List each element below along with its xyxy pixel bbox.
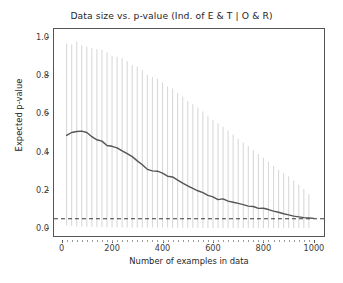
- x-minor-tick-mark: [268, 240, 269, 242]
- x-minor-tick-mark: [157, 240, 158, 242]
- x-minor-tick-mark: [122, 240, 123, 242]
- x-minor-tick-mark: [309, 240, 310, 242]
- x-tick-mark: [314, 240, 315, 243]
- chart-title: Data size vs. p-value (Ind. of E & T | O…: [0, 10, 343, 21]
- x-minor-tick-mark: [87, 240, 88, 242]
- y-tick-label: 0.0: [3, 223, 49, 233]
- y-tick-mark: [46, 228, 49, 229]
- y-tick-mark: [46, 113, 49, 114]
- x-minor-tick-mark: [142, 240, 143, 242]
- x-minor-tick-mark: [253, 240, 254, 242]
- x-minor-tick-mark: [82, 240, 83, 242]
- x-minor-tick-mark: [223, 240, 224, 242]
- x-minor-tick-mark: [198, 240, 199, 242]
- x-minor-tick-mark: [284, 240, 285, 242]
- x-minor-tick-mark: [258, 240, 259, 242]
- y-tick-label: 0.4: [3, 147, 49, 157]
- y-tick-mark: [46, 190, 49, 191]
- x-minor-tick-mark: [238, 240, 239, 242]
- x-minor-tick-mark: [274, 240, 275, 242]
- x-minor-tick-mark: [279, 240, 280, 242]
- x-axis-ticks: 02004006008001000: [53, 240, 325, 254]
- y-tick-mark: [46, 75, 49, 76]
- y-axis-ticks: 0.00.20.40.60.81.0: [0, 28, 49, 237]
- chart-figure: Data size vs. p-value (Ind. of E & T | O…: [0, 0, 343, 283]
- x-tick-label: 400: [155, 243, 171, 253]
- x-minor-tick-mark: [213, 240, 214, 242]
- x-minor-tick-mark: [218, 240, 219, 242]
- x-minor-tick-mark: [243, 240, 244, 242]
- x-minor-tick-mark: [67, 240, 68, 242]
- plot-area: [53, 28, 325, 237]
- x-minor-tick-mark: [299, 240, 300, 242]
- y-tick-mark: [46, 152, 49, 153]
- x-minor-tick-mark: [72, 240, 73, 242]
- x-minor-tick-mark: [107, 240, 108, 242]
- y-tick-label: 0.8: [3, 70, 49, 80]
- x-minor-tick-mark: [304, 240, 305, 242]
- x-minor-tick-mark: [188, 240, 189, 242]
- x-minor-tick-mark: [168, 240, 169, 242]
- x-tick-label: 800: [256, 243, 272, 253]
- error-bars: [67, 41, 309, 227]
- x-minor-tick-mark: [294, 240, 295, 242]
- x-tick-label: 200: [104, 243, 120, 253]
- x-minor-tick-mark: [248, 240, 249, 242]
- x-tick-label: 0: [59, 243, 64, 253]
- x-minor-tick-mark: [132, 240, 133, 242]
- x-minor-tick-mark: [203, 240, 204, 242]
- x-minor-tick-mark: [233, 240, 234, 242]
- x-minor-tick-mark: [137, 240, 138, 242]
- x-minor-tick-mark: [102, 240, 103, 242]
- x-tick-label: 600: [205, 243, 221, 253]
- y-tick-label: 0.2: [3, 185, 49, 195]
- x-minor-tick-mark: [263, 240, 264, 242]
- plot-svg: [54, 29, 324, 236]
- x-tick-mark: [62, 240, 63, 243]
- x-minor-tick-mark: [77, 240, 78, 242]
- x-minor-tick-mark: [173, 240, 174, 242]
- y-tick-label: 1.0: [3, 32, 49, 42]
- x-minor-tick-mark: [228, 240, 229, 242]
- x-minor-tick-mark: [163, 240, 164, 242]
- x-minor-tick-mark: [208, 240, 209, 242]
- x-minor-tick-mark: [92, 240, 93, 242]
- x-minor-tick-mark: [178, 240, 179, 242]
- x-minor-tick-mark: [127, 240, 128, 242]
- x-minor-tick-mark: [289, 240, 290, 242]
- y-tick-label: 0.6: [3, 108, 49, 118]
- x-minor-tick-mark: [183, 240, 184, 242]
- x-minor-tick-mark: [147, 240, 148, 242]
- x-minor-tick-mark: [152, 240, 153, 242]
- x-minor-tick-mark: [112, 240, 113, 242]
- x-minor-tick-mark: [117, 240, 118, 242]
- x-axis-label: Number of examples in data: [53, 256, 325, 266]
- mean-line: [67, 131, 314, 218]
- x-minor-tick-mark: [193, 240, 194, 242]
- x-minor-tick-mark: [97, 240, 98, 242]
- y-tick-mark: [46, 37, 49, 38]
- x-tick-label: 1000: [303, 243, 324, 253]
